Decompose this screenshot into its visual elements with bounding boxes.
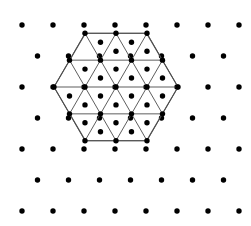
lattice-dot [205,22,210,27]
hexagon-vertex-dot [51,84,56,89]
lattice-dot [35,115,40,120]
lattice-dot [205,84,210,89]
triangle-centroid-dot [160,75,165,80]
triangle-centroid-dot [82,66,87,71]
figure-background [0,0,251,226]
hexagon-vertex-dot [129,111,134,116]
lattice-dot [81,146,86,151]
lattice-dot [19,208,24,213]
hexagon-vertex-dot [82,84,87,89]
triangle-centroid-dot [144,120,149,125]
lattice-dot [174,208,179,213]
triangle-centroid-dot [144,66,149,71]
lattice-dot [66,177,71,182]
triangle-centroid-dot [160,93,165,98]
hexagon-vertex-dot [160,111,165,116]
triangle-centroid-dot [144,49,149,54]
triangle-centroid-dot [113,120,118,125]
triangle-centroid-dot [98,129,103,134]
hexagon-vertex-dot [144,138,149,143]
hexagon-vertex-dot [144,84,149,89]
triangle-centroid-dot [113,66,118,71]
lattice-dot [221,115,226,120]
figure-root [0,0,251,226]
triangle-centroid-dot [129,75,134,80]
lattice-dot [190,53,195,58]
lattice-dot [174,146,179,151]
lattice-dot [50,22,55,27]
triangle-centroid-dot [144,102,149,107]
triangle-centroid-dot [98,40,103,45]
hexagon-vertex-dot [98,111,103,116]
hexagon-vertex-dot [175,84,180,89]
lattice-dot [236,84,241,89]
lattice-dot [143,146,148,151]
hexagon-vertex-dot [67,111,72,116]
lattice-dot [221,177,226,182]
hexagon-vertex-dot [82,31,87,36]
lattice-dot [50,208,55,213]
hexagon-vertex-dot [144,31,149,36]
lattice-diagram [0,0,251,226]
triangle-centroid-dot [67,93,72,98]
lattice-dot [221,53,226,58]
triangle-centroid-dot [129,40,134,45]
lattice-dot [190,115,195,120]
hexagon-vertex-dot [113,31,118,36]
triangle-centroid-dot [82,102,87,107]
lattice-dot [19,22,24,27]
lattice-dot [190,177,195,182]
triangle-centroid-dot [129,93,134,98]
lattice-dot [174,22,179,27]
lattice-dot [159,177,164,182]
lattice-dot [236,22,241,27]
lattice-dot [236,146,241,151]
lattice-dot [81,208,86,213]
lattice-dot [81,22,86,27]
lattice-dot [97,177,102,182]
triangle-centroid-dot [82,120,87,125]
lattice-dot [112,146,117,151]
hexagon-vertex-dot [129,57,134,62]
lattice-dot [205,208,210,213]
triangle-centroid-dot [113,102,118,107]
lattice-dot [128,177,133,182]
lattice-dot [35,53,40,58]
lattice-dot [35,177,40,182]
hexagon-vertex-dot [160,57,165,62]
triangle-centroid-dot [98,93,103,98]
lattice-dot [112,208,117,213]
lattice-dot [143,208,148,213]
hexagon-vertex-dot [67,57,72,62]
lattice-dot [143,22,148,27]
triangle-centroid-dot [129,129,134,134]
triangle-centroid-dot [113,49,118,54]
hexagon-vertex-dot [98,57,103,62]
lattice-dot [112,22,117,27]
triangle-centroid-dot [98,75,103,80]
lattice-dot [50,146,55,151]
lattice-dot [205,146,210,151]
lattice-dot [19,146,24,151]
hexagon-vertex-dot [113,138,118,143]
lattice-dot [19,84,24,89]
hexagon-vertex-dot [113,84,118,89]
hexagon-vertex-dot [82,138,87,143]
lattice-dot [236,208,241,213]
